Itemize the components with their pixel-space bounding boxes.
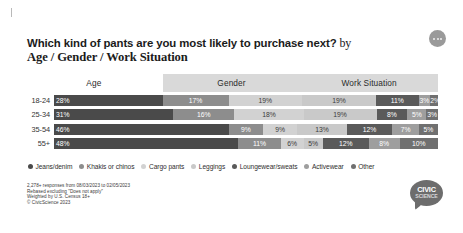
legend-swatch-icon [191,164,196,169]
tab-work-situation[interactable]: Work Situation [300,74,438,92]
kebab-menu-icon[interactable] [429,30,446,47]
segment-value: 5% [407,109,426,120]
bar-segment[interactable]: 18% [234,109,303,120]
segment-value: 2% [430,95,438,106]
bar-segment[interactable]: 5% [419,124,438,135]
bar-segment[interactable]: 5% [304,138,323,149]
bar-segment[interactable]: 16% [173,109,234,120]
legend-item[interactable]: Khakis or chinos [79,163,134,170]
legend-label: Khakis or chinos [87,163,135,170]
page-artifact [11,8,12,17]
title-line-primary: Which kind of pants are you most likely … [27,36,367,50]
tab-label: Gender [217,78,245,88]
segment-value: 8% [369,138,400,149]
kebab-dot [440,38,442,40]
legend-item[interactable]: Jeans/denim [28,163,72,170]
page-title: Which kind of pants are you most likely … [27,36,367,64]
segment-value: 19% [229,95,303,106]
legend-swatch-icon [141,164,146,169]
segment-value: 8% [377,109,408,120]
bar-segment[interactable]: 19% [229,95,303,106]
kebab-dot [433,38,435,40]
bar-segment[interactable]: 17% [163,95,229,106]
chart-row: 18-2428%17%19%19%11%3%2% [25,95,438,106]
bar-segment[interactable]: 13% [297,124,346,135]
segment-value: 9% [263,124,297,135]
segment-value: 3% [426,109,438,120]
legend-item[interactable]: Leggings [191,163,225,170]
bar-segment[interactable]: 2% [430,95,438,106]
legend-label: Activewear [312,163,344,170]
bar-segment[interactable]: 3% [426,109,438,120]
segment-value: 5% [419,124,438,135]
footnote: 2,278+ responses from 08/03/2023 to 02/0… [27,183,267,205]
legend-swatch-icon [79,164,84,169]
bar-segment[interactable]: 48% [54,138,238,149]
legend-item[interactable]: Loungewear/sweats [232,163,297,170]
legend-swatch-icon [304,164,309,169]
segment-value: 19% [304,109,377,120]
tab-age[interactable]: Age [25,74,163,92]
segment-value: 18% [234,109,303,120]
title-line-secondary: Age / Gender / Work Situation [27,50,367,64]
bar-segment[interactable]: 7% [392,124,419,135]
segment-value: 17% [163,95,229,106]
tab-label: Work Situation [342,78,397,88]
legend-item[interactable]: Activewear [304,163,343,170]
bar-segment[interactable]: 28% [54,95,163,106]
legend-label: Cargo pants [149,163,184,170]
stacked-bar: 48%11%6%5%12%8%10% [54,138,438,149]
bar-segment[interactable]: 3% [419,95,431,106]
bar-segment[interactable]: 19% [302,95,376,106]
row-label: 18-24 [25,96,54,105]
bar-segment[interactable]: 9% [263,124,297,135]
kebab-dot [437,38,439,40]
title-by: by [337,36,352,50]
stacked-bar: 46%9%9%13%12%7%5% [54,124,438,135]
bar-segment[interactable]: 11% [238,138,280,149]
logo-bubble: CIVIC SCIENCE [410,180,443,206]
stacked-bar-chart: 18-2428%17%19%19%11%3%2%25-3431%16%18%19… [25,95,438,153]
legend-item[interactable]: Other [351,163,375,170]
legend-item[interactable]: Cargo pants [141,163,184,170]
segment-value: 16% [173,109,234,120]
segment-value: 13% [297,124,346,135]
legend-label: Jeans/denim [36,163,73,170]
bar-segment[interactable]: 46% [54,124,229,135]
segment-value: 7% [392,124,419,135]
segment-value: 12% [323,138,369,149]
legend-swatch-icon [28,164,33,169]
segment-value: 19% [302,95,376,106]
row-label: 35-54 [25,125,54,134]
bar-segment[interactable]: 12% [323,138,369,149]
segment-value: 11% [238,138,280,149]
segment-value: 10% [400,138,438,149]
stacked-bar: 31%16%18%19%8%5%3% [54,109,438,120]
segment-value: 5% [304,138,323,149]
bar-segment[interactable]: 9% [229,124,263,135]
chart-card: Which kind of pants are you most likely … [0,0,463,233]
chart-legend: Jeans/denimKhakis or chinosCargo pantsLe… [28,163,438,170]
segment-value: 48% [54,138,238,149]
bar-segment[interactable]: 8% [369,138,400,149]
tab-gender[interactable]: Gender [163,74,301,92]
bar-segment[interactable]: 31% [54,109,173,120]
logo-text-science: SCIENCE [415,194,437,199]
segment-value: 11% [376,95,419,106]
row-label: 25-34 [25,110,54,119]
segment-value: 9% [229,124,263,135]
bar-segment[interactable]: 6% [281,138,304,149]
bar-segment[interactable]: 10% [400,138,438,149]
bar-segment[interactable]: 19% [304,109,377,120]
legend-swatch-icon [232,164,237,169]
bar-segment[interactable]: 12% [347,124,393,135]
bar-segment[interactable]: 11% [376,95,419,106]
breakdown-tabs: AgeGenderWork Situation [25,74,438,92]
bar-segment[interactable]: 8% [377,109,408,120]
chart-row: 35-5446%9%9%13%12%7%5% [25,124,438,135]
chart-row: 25-3431%16%18%19%8%5%3% [25,109,438,120]
legend-label: Other [358,163,374,170]
stacked-bar: 28%17%19%19%11%3%2% [54,95,438,106]
segment-value: 31% [54,109,173,120]
bar-segment[interactable]: 5% [407,109,426,120]
